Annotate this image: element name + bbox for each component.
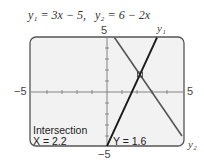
xmax-label: 5 — [187, 85, 193, 97]
intersection-y-value: Y = 1.6 — [113, 135, 146, 147]
y1-curve-label: y₁ — [157, 22, 166, 34]
ymax-label: 5 — [101, 24, 107, 36]
intersection-x-value: X = 2.2 — [33, 135, 67, 147]
y2-curve-label: y₂ — [188, 138, 197, 150]
xmin-label: −5 — [14, 85, 27, 97]
ymin-label: −5 — [98, 148, 111, 160]
